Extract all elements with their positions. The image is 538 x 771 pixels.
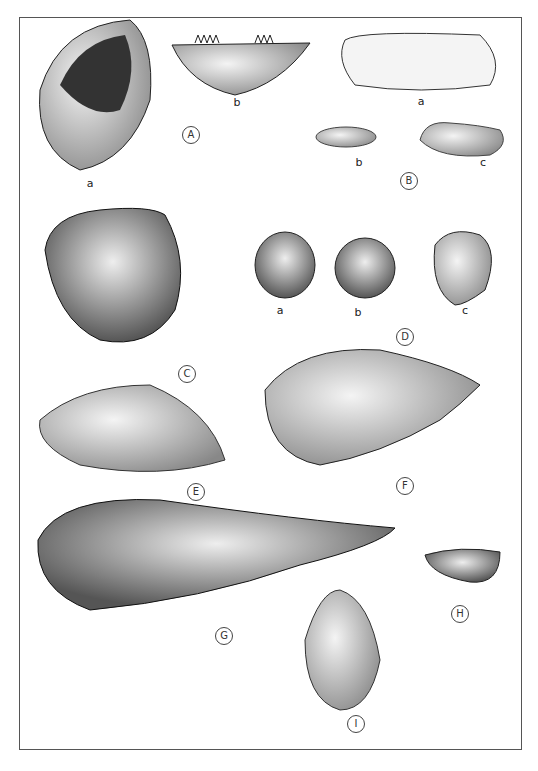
label-A-b: b: [234, 96, 241, 109]
label-I: I: [347, 715, 365, 733]
shell-B-a: [342, 33, 496, 90]
label-B-c: c: [480, 156, 486, 169]
label-B: B: [400, 172, 418, 190]
shell-D-b: [335, 238, 395, 298]
shell-B-c: [420, 123, 503, 156]
label-F: F: [396, 477, 414, 495]
label-E: E: [187, 483, 205, 501]
label-D-b: b: [355, 306, 362, 319]
shell-C: [45, 208, 181, 342]
shell-F: [265, 350, 480, 466]
label-D-a: a: [277, 304, 284, 317]
label-B-a: a: [418, 95, 425, 108]
shell-A-b: [172, 35, 310, 95]
label-C: C: [178, 365, 196, 383]
label-A-a: a: [87, 177, 94, 190]
label-G: G: [215, 627, 233, 645]
shell-H: [425, 549, 500, 582]
fossil-illustrations: [0, 0, 538, 771]
label-H: H: [451, 605, 469, 623]
shell-I: [305, 590, 380, 710]
label-B-b: b: [356, 156, 363, 169]
shell-D-a: [255, 232, 315, 298]
shell-A-a: [40, 20, 151, 170]
shell-E: [40, 385, 226, 471]
shell-B-b: [316, 127, 376, 147]
label-D-c: c: [462, 304, 468, 317]
label-D: D: [396, 328, 414, 346]
label-A: A: [182, 126, 200, 144]
shell-D-c: [434, 232, 491, 305]
